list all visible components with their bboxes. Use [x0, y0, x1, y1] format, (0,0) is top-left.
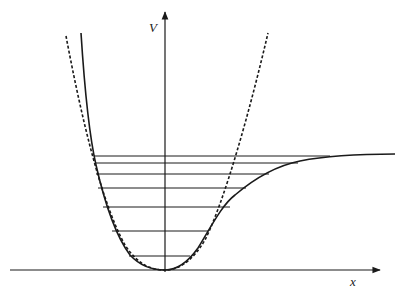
x-axis-label: x [349, 274, 356, 289]
energy-levels [94, 156, 330, 256]
morse-potential-curve [81, 33, 395, 270]
potential-energy-diagram: V x [0, 0, 400, 292]
v-axis-label: V [149, 20, 159, 35]
harmonic-potential-curve [66, 33, 268, 270]
